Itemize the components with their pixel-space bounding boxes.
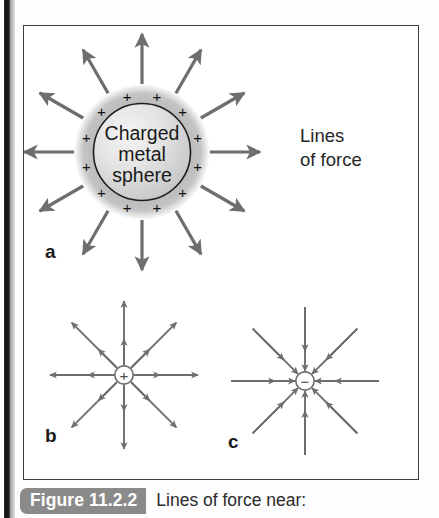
panel-c-letter: c [228, 431, 239, 452]
field-line [326, 402, 357, 433]
panel-c-negative-charge: − c [228, 307, 379, 455]
field-line [326, 329, 357, 360]
field-line [99, 350, 117, 368]
field-line [99, 382, 117, 400]
panel-a-charged-sphere: ++++++++++++ Charged metal sphere Lines … [24, 34, 362, 270]
surface-charge-plus: + [82, 158, 91, 175]
positive-charge-symbol: + [120, 367, 129, 384]
panel-a-letter: a [45, 241, 56, 262]
surface-charge-plus: + [178, 103, 187, 120]
surface-charge-plus: + [152, 199, 161, 216]
surface-charge-plus: + [123, 199, 132, 216]
field-line [131, 350, 149, 368]
panel-b-letter: b [45, 425, 57, 446]
field-line [131, 382, 149, 400]
surface-charge-plus: + [97, 184, 106, 201]
figure-illustration: ++++++++++++ Charged metal sphere Lines … [0, 0, 439, 518]
figure-number-tag: Figure 11.2.2 [20, 488, 146, 515]
lines-of-force-label-line-1: Lines [300, 125, 344, 146]
surface-charge-plus: + [97, 103, 106, 120]
figure-caption: Figure 11.2.2 Lines of force near: [20, 487, 420, 515]
lines-of-force-label-line-2: of force [300, 149, 362, 170]
field-line [253, 402, 284, 433]
sphere-label-line-3: sphere [112, 164, 172, 186]
surface-charge-plus: + [123, 88, 132, 105]
sphere-label-line-1: Charged [105, 122, 180, 144]
surface-charge-plus: + [152, 88, 161, 105]
surface-charge-plus: + [193, 158, 202, 175]
panel-b-positive-charge: + b [45, 301, 198, 449]
sphere-label-line-2: metal [118, 143, 166, 165]
surface-charge-plus: + [82, 129, 91, 146]
negative-charge-symbol: − [301, 373, 310, 390]
surface-charge-plus: + [193, 129, 202, 146]
field-line [253, 329, 284, 360]
surface-charge-plus: + [178, 184, 187, 201]
figure-caption-text: Lines of force near: [146, 492, 306, 510]
